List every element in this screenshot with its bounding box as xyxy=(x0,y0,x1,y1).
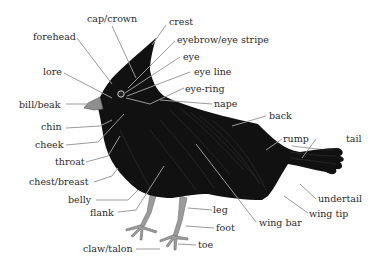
label-lore: lore xyxy=(43,66,62,77)
label-cheek: cheek xyxy=(35,139,64,150)
label-leg: leg xyxy=(213,204,228,215)
label-undertail: undertail xyxy=(318,193,362,204)
label-wing-tip: wing tip xyxy=(309,208,348,219)
label-flank: flank xyxy=(90,207,114,218)
label-forehead: forehead xyxy=(33,31,76,42)
label-nape: nape xyxy=(214,98,238,109)
label-wing-bar: wing bar xyxy=(259,217,302,228)
label-eyebrow: eyebrow/eye stripe xyxy=(177,34,269,45)
label-eye: eye xyxy=(183,51,200,62)
label-throat: throat xyxy=(55,156,85,167)
label-eye-ring: eye-ring xyxy=(185,83,225,94)
label-chin: chin xyxy=(41,121,62,132)
right-foot xyxy=(160,235,188,250)
right-leg xyxy=(173,196,187,237)
label-eye-line: eye line xyxy=(194,66,232,77)
label-cap-crown: cap/crown xyxy=(87,13,137,24)
left-foot xyxy=(126,225,157,240)
label-toe: toe xyxy=(198,239,214,250)
label-chest: chest/breast xyxy=(29,176,89,187)
legs xyxy=(126,195,188,250)
label-claw: claw/talon xyxy=(83,243,133,254)
label-tail: tail xyxy=(346,133,362,144)
eye-ring-shape xyxy=(118,91,124,97)
label-crest: crest xyxy=(169,16,193,27)
bird-silhouette xyxy=(84,38,344,200)
label-belly: belly xyxy=(68,194,92,205)
bird-anatomy-diagram: cap/crown crest forehead eyebrow/eye str… xyxy=(0,0,382,267)
label-bill: bill/beak xyxy=(19,99,61,110)
label-back: back xyxy=(269,110,292,121)
label-rump: rump xyxy=(283,133,309,144)
label-foot: foot xyxy=(216,222,235,233)
